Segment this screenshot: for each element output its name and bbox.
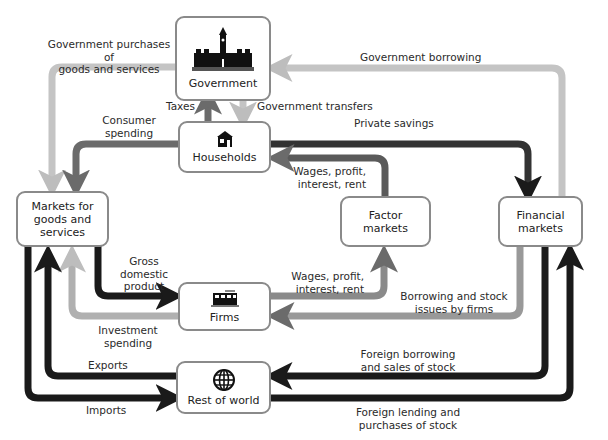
markets-goods-services-box: Markets for goods and services [16,191,109,247]
label-wages-from-firms: Wages, profit, interest, rent [288,270,364,295]
flow-consumer-spending [76,144,178,180]
markets-goods-services-label: Markets for goods and services [31,200,93,239]
financial-markets-box: Financial markets [498,196,583,247]
label-exports: Exports [88,359,128,372]
label-imports: Imports [86,404,126,417]
label-government-transfers: Government transfers [257,100,373,113]
label-foreign-borrowing: Foreign borrowing and sales of stock [356,348,460,373]
label-foreign-lending: Foreign lending and purchases of stock [354,406,462,431]
rest-of-world-box: Rest of world [176,361,271,414]
firms-box: Firms [178,282,271,331]
households-label: Households [193,151,257,164]
label-private-savings: Private savings [354,117,434,130]
rest-of-world-label: Rest of world [188,394,260,407]
government-box: Government [175,16,271,101]
house-icon [215,130,235,148]
label-government-borrowing: Government borrowing [360,51,481,64]
factory-building-icon [211,290,239,308]
label-government-purchases: Government purchases of goods and servic… [44,38,174,76]
factor-markets-box: Factor markets [340,196,431,247]
parliament-building-icon [192,27,254,77]
label-investment-spending: Investment spending [96,324,160,349]
label-consumer-spending: Consumer spending [102,114,156,139]
label-wages-to-households: Wages, profit, interest, rent [290,165,366,190]
households-box: Households [178,121,271,173]
factor-markets-label: Factor markets [363,209,408,235]
label-borrowing-stock: Borrowing and stock issues by firms [400,290,508,315]
globe-icon [212,368,236,392]
label-taxes: Taxes [166,100,195,113]
financial-markets-label: Financial markets [516,209,564,235]
government-label: Government [189,77,258,90]
label-gdp: Gross domestic product [118,255,170,293]
firms-label: Firms [210,311,239,324]
